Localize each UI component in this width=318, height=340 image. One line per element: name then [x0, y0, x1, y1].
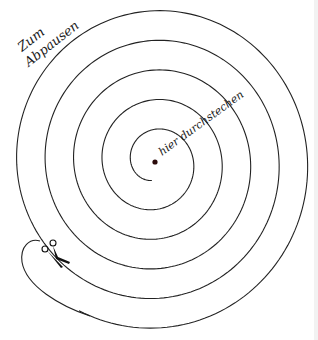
center-dot: [152, 159, 157, 164]
pierce-label: hier durchstechen: [156, 88, 246, 158]
trace-label: Zum Abpausen: [11, 5, 82, 70]
spiral-line: [17, 11, 308, 329]
spiral-diagram: Zum Abpausen hier durchstechen: [0, 0, 318, 340]
scissors-icon: [42, 240, 70, 268]
spiral-end-hook: [22, 240, 90, 316]
pierce-label-text: hier durchstechen: [156, 88, 246, 158]
